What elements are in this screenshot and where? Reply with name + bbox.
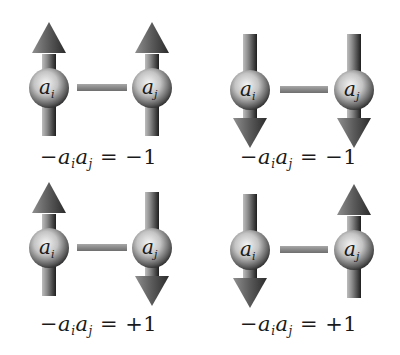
panel-top-right: ai aj	[230, 34, 374, 148]
sub-j: j	[289, 324, 293, 338]
sub-j: j	[89, 157, 93, 171]
var-a: a	[75, 312, 88, 336]
panel-bottom-left: ai aj	[29, 182, 172, 306]
sub-j: j	[89, 324, 93, 338]
panel-top-left: ai aj	[29, 22, 172, 136]
equation-value: −1	[325, 145, 357, 169]
equation-bottom-right: −aiaj = +1	[240, 312, 357, 338]
equals-sign: =	[300, 145, 318, 169]
equation-value: +1	[325, 312, 357, 336]
bond	[77, 244, 127, 251]
equals-sign: =	[100, 312, 118, 336]
spin-up-arrow-icon: aj	[334, 184, 374, 298]
bond	[280, 246, 328, 253]
var-a: a	[258, 145, 271, 169]
equals-sign: =	[100, 145, 118, 169]
minus-sign: −	[240, 312, 258, 336]
sub-j: j	[289, 157, 293, 171]
var-a: a	[258, 312, 271, 336]
var-a: a	[58, 145, 71, 169]
equation-top-right: −aiaj = −1	[240, 145, 357, 171]
spin-down-arrow-icon: aj	[334, 34, 374, 148]
spin-down-arrow-icon: ai	[230, 34, 270, 148]
spin-up-arrow-icon: aj	[132, 22, 172, 136]
equation-value: +1	[125, 312, 157, 336]
var-a: a	[275, 312, 288, 336]
minus-sign: −	[40, 312, 58, 336]
equation-top-left: −aiaj = −1	[40, 145, 157, 171]
var-a: a	[58, 312, 71, 336]
var-a: a	[275, 145, 288, 169]
bond	[77, 84, 127, 91]
spin-down-arrow-icon: ai	[230, 194, 270, 308]
spin-down-arrow-icon: aj	[132, 192, 172, 306]
spin-pair-diagram: ai aj ai aj ai aj	[0, 0, 400, 355]
bond	[280, 86, 328, 93]
equation-bottom-left: −aiaj = +1	[40, 312, 157, 338]
minus-sign: −	[240, 145, 258, 169]
spin-up-arrow-icon: ai	[29, 182, 69, 296]
var-a: a	[75, 145, 88, 169]
equals-sign: =	[300, 312, 318, 336]
spin-up-arrow-icon: ai	[29, 22, 69, 136]
minus-sign: −	[40, 145, 58, 169]
panel-bottom-right: ai aj	[230, 184, 374, 308]
equation-value: −1	[125, 145, 157, 169]
